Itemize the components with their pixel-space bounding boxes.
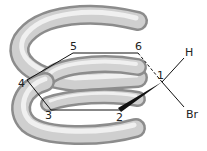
substituent-label-br: Br: [186, 108, 199, 121]
atom-label-3: 3: [45, 109, 52, 122]
atom-label-1: 1: [157, 69, 164, 82]
substituent-label-h: H: [185, 46, 193, 59]
atom-label-4: 4: [18, 77, 25, 90]
helix-diagram: 5 6 1 4 3 2 H Br: [0, 0, 207, 151]
atom-label-5: 5: [70, 40, 77, 53]
lower-inner-tube: [48, 93, 138, 104]
bond-1-H: [162, 58, 184, 82]
bond-1-Br: [162, 82, 184, 107]
atom-label-2: 2: [116, 111, 123, 124]
atom-label-6: 6: [135, 40, 142, 53]
